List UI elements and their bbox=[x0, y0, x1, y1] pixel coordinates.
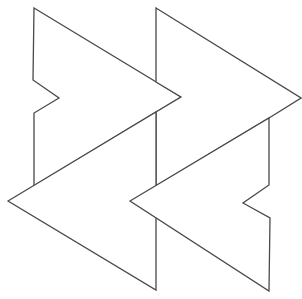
interlocking-arrows-figure bbox=[0, 0, 302, 299]
